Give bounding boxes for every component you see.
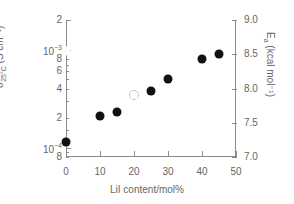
- left-axis-title: σ25°C (S cm⁻¹): [0, 26, 7, 88]
- x-axis-tick-label: 30: [162, 167, 173, 177]
- data-point-conductivity: [198, 55, 207, 64]
- data-point-conductivity: [164, 75, 173, 84]
- left-axis-minor-tick: [66, 65, 69, 66]
- x-axis-tick: [168, 151, 169, 157]
- left-axis-tick: [66, 71, 69, 72]
- right-axis-tick-label: 9.0: [244, 15, 258, 25]
- x-axis-tick: [66, 151, 67, 157]
- data-point-conductivity: [113, 107, 122, 116]
- left-axis-tick: [66, 157, 69, 158]
- data-point-activation-energy: [113, 87, 122, 96]
- x-axis-tick: [100, 151, 101, 157]
- data-point-activation-energy: [164, 111, 173, 120]
- left-axis-symbol: σ: [0, 82, 5, 88]
- left-axis-tick: [66, 118, 69, 119]
- left-axis-tick-label: 8: [28, 152, 62, 162]
- data-point-activation-energy: [147, 100, 156, 109]
- right-axis-title: Ea (kcal mol⁻¹): [263, 32, 276, 97]
- x-axis-tick-label: 20: [128, 167, 139, 177]
- figure-scatter-chart: σ25°C (S cm⁻¹) Ea (kcal mol⁻¹) LiI conte…: [0, 0, 294, 204]
- x-axis-tick: [134, 151, 135, 157]
- left-axis-tick-label: 8: [28, 54, 62, 64]
- left-axis-units: (S cm⁻¹): [0, 26, 5, 64]
- data-point-conductivity: [62, 137, 71, 146]
- x-axis-title: LiI content/mol%: [110, 184, 184, 195]
- x-axis-tick-label: 0: [63, 167, 69, 177]
- left-axis-tick: [66, 148, 71, 149]
- right-axis-tick: [232, 89, 237, 90]
- bottom-axis-line: [66, 156, 236, 157]
- left-axis-tick-label: 4: [28, 84, 62, 94]
- left-axis-minor-tick: [66, 130, 69, 131]
- data-point-activation-energy: [62, 46, 71, 55]
- left-axis-tick-label: 2: [28, 15, 62, 25]
- x-axis-tick: [236, 151, 237, 157]
- left-axis-tick-label: 2: [28, 113, 62, 123]
- left-axis-minor-tick: [66, 101, 69, 102]
- right-axis-tick-label: 8.0: [244, 84, 258, 94]
- plot-area: [66, 20, 236, 157]
- x-axis-tick: [202, 151, 203, 157]
- data-point-activation-energy: [130, 91, 139, 100]
- right-axis-tick-label: 7.0: [244, 152, 258, 162]
- right-axis-tick-label: 8.5: [244, 49, 258, 59]
- right-axis-tick: [232, 54, 237, 55]
- data-point-conductivity: [96, 111, 105, 120]
- left-axis-tick: [66, 59, 69, 60]
- x-axis-tick-label: 50: [230, 167, 241, 177]
- right-axis-symbol: E: [265, 32, 276, 39]
- left-axis-tick: [66, 20, 71, 21]
- right-axis-tick: [232, 123, 237, 124]
- data-point-conductivity: [215, 50, 224, 59]
- data-point-conductivity: [147, 86, 156, 95]
- left-axis-tick-label: 6: [28, 66, 62, 76]
- right-axis-tick: [232, 157, 237, 158]
- x-axis-tick-label: 10: [94, 167, 105, 177]
- data-point-activation-energy: [96, 77, 105, 86]
- left-axis-subscript: 25°C: [0, 66, 7, 82]
- left-axis-tick: [66, 89, 69, 90]
- right-axis-units: (kcal mol⁻¹): [265, 45, 276, 97]
- data-point-activation-energy: [198, 139, 207, 148]
- right-axis-tick: [232, 20, 237, 21]
- left-axis-minor-tick: [66, 79, 69, 80]
- data-point-activation-energy: [215, 139, 224, 148]
- right-axis-subscript: a: [263, 39, 270, 43]
- right-axis-tick-label: 7.5: [244, 118, 258, 128]
- x-axis-tick-label: 40: [196, 167, 207, 177]
